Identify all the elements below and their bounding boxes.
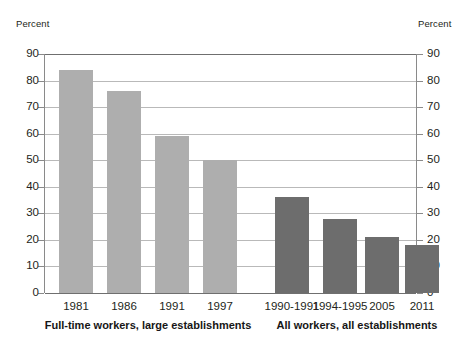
- bar-chart: Percent Percent 909080807070606050504040…: [0, 0, 465, 344]
- tick-label-left-0: 0: [33, 287, 39, 299]
- category-label-1997: 1997: [180, 301, 260, 313]
- bar-1981: [59, 70, 93, 293]
- tick-label-right-30: 30: [427, 207, 440, 219]
- tick-label-left-50: 50: [26, 154, 39, 166]
- bar-2011: [405, 245, 439, 293]
- bar-1997: [203, 160, 237, 293]
- tick-label-right-90: 90: [427, 48, 440, 60]
- bar-2005: [365, 237, 399, 293]
- tick-label-right-60: 60: [427, 128, 440, 140]
- bar-1994-1995: [323, 219, 357, 293]
- gridline-0: [45, 293, 416, 294]
- left-axis-line: [44, 54, 45, 293]
- tick-right-60: [417, 134, 423, 135]
- bar-1990-1991: [275, 197, 309, 293]
- tick-label-right-50: 50: [427, 154, 440, 166]
- tick-right-50: [417, 160, 423, 161]
- group-label-2: All workers, all establishments: [227, 320, 465, 331]
- tick-right-70: [417, 107, 423, 108]
- tick-label-right-80: 80: [427, 75, 440, 87]
- tick-right-80: [417, 81, 423, 82]
- tick-label-left-70: 70: [26, 101, 39, 113]
- tick-label-left-60: 60: [26, 128, 39, 140]
- tick-label-left-90: 90: [26, 48, 39, 60]
- right-axis-unit-label: Percent: [418, 18, 451, 29]
- tick-label-right-70: 70: [427, 101, 440, 113]
- gridline-90: [45, 54, 416, 55]
- gridline-70: [45, 107, 416, 108]
- bar-1986: [107, 91, 141, 293]
- tick-label-left-40: 40: [26, 181, 39, 193]
- plot-area: 90908080707060605050404030302020101000: [45, 54, 416, 293]
- gridline-80: [45, 81, 416, 82]
- bar-1991: [155, 136, 189, 293]
- gridline-60: [45, 134, 416, 135]
- tick-label-left-20: 20: [26, 234, 39, 246]
- tick-right-0: [417, 293, 423, 294]
- tick-right-90: [417, 54, 423, 55]
- tick-right-30: [417, 213, 423, 214]
- tick-label-left-10: 10: [26, 260, 39, 272]
- tick-label-right-20: 20: [427, 234, 440, 246]
- left-axis-unit-label: Percent: [16, 18, 49, 29]
- tick-label-left-30: 30: [26, 207, 39, 219]
- tick-right-40: [417, 187, 423, 188]
- tick-label-left-80: 80: [26, 75, 39, 87]
- tick-right-20: [417, 240, 423, 241]
- category-label-2011: 2011: [382, 301, 462, 313]
- tick-label-right-40: 40: [427, 181, 440, 193]
